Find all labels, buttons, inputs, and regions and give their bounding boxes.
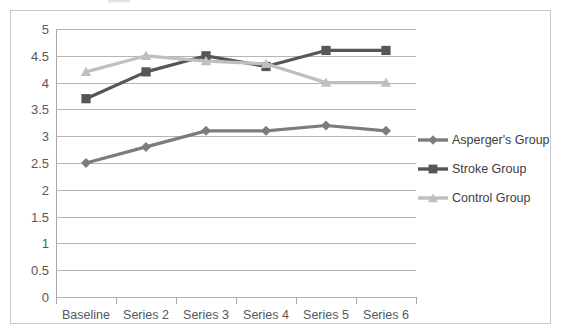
data-point-marker bbox=[381, 46, 390, 55]
legend-marker-square-icon bbox=[418, 162, 448, 176]
series-line bbox=[86, 125, 386, 163]
legend-item-stroke-group[interactable]: Stroke Group bbox=[418, 157, 543, 181]
x-axis-tick-label: Series 5 bbox=[303, 308, 349, 322]
x-axis-tick-mark bbox=[116, 297, 117, 304]
data-point-marker bbox=[321, 120, 331, 130]
series-stroke-group bbox=[81, 46, 390, 103]
data-point-marker bbox=[81, 158, 91, 168]
series-line bbox=[86, 50, 386, 98]
x-axis-tick-label: Series 3 bbox=[183, 308, 229, 322]
legend-item-aspergers-group[interactable]: Asperger's Group bbox=[418, 128, 543, 152]
data-point-marker bbox=[321, 46, 330, 55]
y-axis-tick-label: 3.5 bbox=[31, 103, 49, 116]
legend-marker-diamond-icon bbox=[418, 133, 448, 147]
x-axis-tick-mark bbox=[296, 297, 297, 304]
legend-label-control-group: Control Group bbox=[452, 191, 531, 205]
y-axis-tick-label: 0 bbox=[42, 291, 49, 304]
x-axis-tick-mark bbox=[176, 297, 177, 304]
x-axis-tick-label: Series 4 bbox=[243, 308, 289, 322]
data-point-marker bbox=[201, 126, 211, 136]
data-point-marker bbox=[381, 126, 391, 136]
y-axis-tick-label: 4.5 bbox=[31, 49, 49, 62]
legend-item-control-group[interactable]: Control Group bbox=[418, 186, 543, 210]
y-axis-tick-label: 3 bbox=[42, 130, 49, 143]
x-axis-tick-label: Series 2 bbox=[123, 308, 169, 322]
y-axis-tick-label: 1.5 bbox=[31, 210, 49, 223]
data-point-marker bbox=[141, 67, 150, 76]
chart-screenshot: 54.543.532.521.510.50 BaselineSeries 2Se… bbox=[0, 0, 563, 336]
plot-area: 54.543.532.521.510.50 BaselineSeries 2Se… bbox=[56, 29, 416, 297]
y-axis-tick-label: 2.5 bbox=[31, 157, 49, 170]
legend-label-stroke-group: Stroke Group bbox=[452, 162, 526, 176]
y-axis-tick-label: 0.5 bbox=[31, 264, 49, 277]
data-point-marker bbox=[81, 94, 90, 103]
x-axis-tick-mark bbox=[56, 297, 57, 304]
y-axis-tick-label: 1 bbox=[42, 237, 49, 250]
legend-marker-triangle-icon bbox=[418, 191, 448, 205]
x-axis-tick-label: Series 6 bbox=[363, 308, 409, 322]
cropped-title-remnant bbox=[108, 0, 130, 4]
x-axis-tick-mark bbox=[236, 297, 237, 304]
data-point-marker bbox=[141, 142, 151, 152]
x-axis-tick-mark bbox=[416, 297, 417, 304]
chart-legend: Asperger's Group Stroke Group Control Gr… bbox=[418, 128, 543, 215]
series-lines-group bbox=[56, 29, 416, 297]
y-axis-tick-label: 5 bbox=[42, 23, 49, 36]
legend-label-aspergers-group: Asperger's Group bbox=[452, 133, 550, 147]
data-point-marker bbox=[261, 126, 271, 136]
y-axis-tick-label: 2 bbox=[42, 183, 49, 196]
x-axis-tick-label: Baseline bbox=[62, 308, 110, 322]
series-asperger-s-group bbox=[81, 120, 391, 168]
x-axis-tick-mark bbox=[356, 297, 357, 304]
y-axis-tick-label: 4 bbox=[42, 76, 49, 89]
